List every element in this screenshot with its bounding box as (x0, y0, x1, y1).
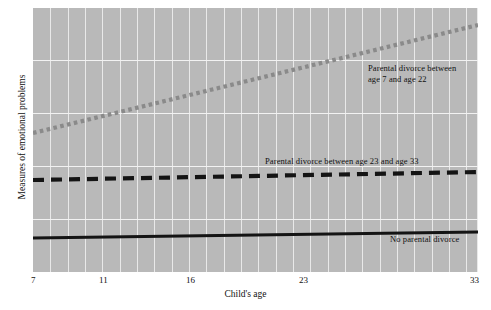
x-axis-tick-labels: 7 11 16 23 33 (0, 275, 491, 289)
annotation-no-divorce: No parental divorce (390, 234, 459, 245)
x-tick-label-33: 33 (470, 275, 479, 285)
x-tick-label-7: 7 (31, 275, 36, 285)
y-axis-title: Measures of emotional problems (17, 12, 27, 262)
series-lines (33, 8, 478, 272)
x-tick-label-16: 16 (186, 275, 195, 285)
chart-container: Parental divorce between age 7 and age 2… (0, 0, 491, 310)
series-line-divorce-23-33 (33, 172, 478, 180)
x-tick-label-23: 23 (299, 275, 308, 285)
x-tick-label-11: 11 (99, 275, 108, 285)
annotation-divorce-23-33: Parental divorce between age 23 and age … (265, 156, 419, 167)
plot-area: Parental divorce between age 7 and age 2… (33, 8, 478, 272)
x-axis-title: Child's age (0, 289, 491, 299)
annotation-divorce-7-22: Parental divorce between age 7 and age 2… (368, 63, 456, 85)
